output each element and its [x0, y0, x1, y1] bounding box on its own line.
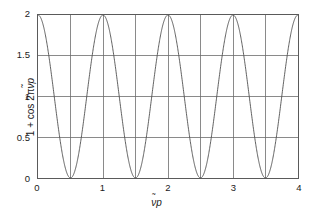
tilde-accent-icon-x: ˜ — [151, 192, 156, 202]
x-tick-label-1: 1 — [100, 183, 105, 193]
y-tick-label-1-5: 1.5 — [4, 51, 30, 61]
cosine-curve — [38, 15, 298, 178]
nu-tilde-glyph: ˜ν — [26, 83, 36, 88]
x-tick-label-4: 4 — [296, 183, 301, 193]
tilde-accent-icon: ˜ — [20, 83, 30, 88]
plot-area — [37, 14, 299, 179]
y-tick-label-2: 2 — [4, 9, 30, 19]
y-tick-label-1: 1 — [4, 92, 30, 102]
y-axis-label-p: p — [25, 77, 36, 83]
x-tick-label-0: 0 — [34, 183, 39, 193]
x-tick-label-3: 3 — [231, 183, 236, 193]
nu-tilde-glyph-x: ˜ν — [151, 198, 156, 208]
chart-figure: 1 + cos 2π˜νp 0 0.5 1 1.5 2 0 1 2 3 4 ˜ν… — [0, 0, 313, 213]
y-tick-label-0: 0 — [4, 174, 30, 184]
x-axis-label-p: p — [156, 197, 162, 208]
cosine-curve-path — [38, 15, 298, 178]
x-tick-label-2: 2 — [165, 183, 170, 193]
y-tick-label-0-5: 0.5 — [4, 133, 30, 143]
x-axis-label: ˜νp — [151, 198, 162, 208]
